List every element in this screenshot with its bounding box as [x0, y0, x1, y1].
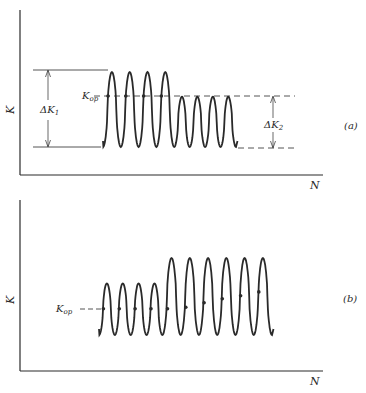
y-axis-label-a: K: [4, 105, 17, 115]
kop-marker: [149, 307, 153, 311]
kop-marker: [102, 307, 106, 311]
dk2-label: ΔK2: [263, 119, 284, 132]
kop-marker: [257, 290, 261, 294]
kop-marker: [124, 94, 128, 98]
x-axis-label-a: N: [309, 179, 320, 192]
kop-marker: [160, 94, 164, 98]
kop-marker: [184, 306, 188, 310]
kop-marker: [106, 94, 110, 98]
kop-marker: [142, 94, 146, 98]
panel-a: K N (a) ΔK1 Kop ΔK2: [4, 10, 358, 192]
kop-marker: [166, 307, 170, 311]
load-waveform-a: [103, 72, 238, 147]
kop-marker: [239, 294, 243, 298]
figure: K N (a) ΔK1 Kop ΔK2 K N (b) Kop: [0, 0, 366, 393]
panel-tag-b: (b): [343, 293, 357, 304]
kop-marker: [118, 307, 122, 311]
kop-marker: [221, 297, 225, 301]
panel-b: K N (b) Kop: [4, 200, 357, 388]
dk1-label: ΔK1: [39, 104, 59, 117]
y-axis-label-b: K: [4, 295, 17, 305]
load-waveform-b: [99, 258, 274, 335]
x-axis-label-b: N: [309, 375, 320, 388]
panel-tag-a: (a): [344, 120, 358, 131]
kop-label-a: Kop: [81, 90, 99, 103]
kop-marker: [202, 301, 206, 305]
kop-label-b: Kop: [55, 303, 73, 316]
kop-marker: [133, 307, 137, 311]
